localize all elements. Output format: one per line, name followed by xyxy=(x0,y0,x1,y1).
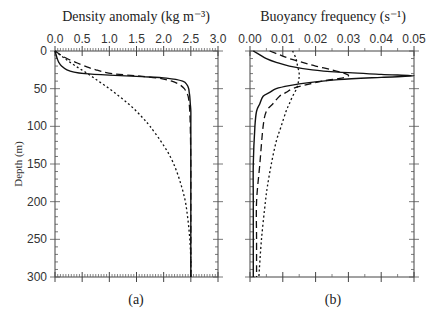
y-tick-label: 250 xyxy=(27,232,47,246)
y-tick-label: 50 xyxy=(34,82,48,96)
y-tick-label: 150 xyxy=(27,157,47,171)
series-dotted-line xyxy=(55,51,191,277)
x-tick-label: 2.0 xyxy=(155,32,172,46)
series-dashed-line xyxy=(55,51,191,277)
x-tick-label: 0.03 xyxy=(337,32,361,46)
x-tick-label: 0.04 xyxy=(370,32,394,46)
x-tick-label: 0.02 xyxy=(304,32,328,46)
x-tick-label: 3.0 xyxy=(210,32,227,46)
panel-b-caption: (b) xyxy=(325,292,342,308)
y-tick-label: 300 xyxy=(27,270,47,284)
panel-a-caption: (a) xyxy=(128,292,144,308)
x-tick-label: 1.0 xyxy=(101,32,118,46)
x-tick-label: 0.0 xyxy=(47,32,64,46)
x-tick-label: 0.5 xyxy=(74,32,91,46)
panel-b-title: Buoyancy frequency (s⁻¹) xyxy=(260,9,406,25)
y-tick-label: 0 xyxy=(40,44,47,58)
x-tick-label: 2.5 xyxy=(182,32,199,46)
series-dashed-line xyxy=(256,51,348,277)
x-tick-label: 1.5 xyxy=(128,32,145,46)
panel-a-title: Density anomaly (kg m⁻³) xyxy=(62,9,210,25)
y-axis-label: Depth (m) xyxy=(12,141,25,187)
series-solid-line xyxy=(253,51,414,277)
panel-b-frame xyxy=(250,51,414,277)
figure: Density anomaly (kg m⁻³) 0.00.51.01.52.0… xyxy=(0,0,437,326)
series-solid-line xyxy=(55,51,191,277)
panel-a-density-anomaly: Density anomaly (kg m⁻³) 0.00.51.01.52.0… xyxy=(12,9,227,308)
x-tick-label: 0.05 xyxy=(402,32,426,46)
y-tick-label: 100 xyxy=(27,119,47,133)
panel-a-frame xyxy=(55,51,218,277)
x-tick-label: 0.01 xyxy=(271,32,295,46)
y-tick-label: 200 xyxy=(27,195,47,209)
panel-b-buoyancy-frequency: Buoyancy frequency (s⁻¹) 0.000.010.020.0… xyxy=(238,9,426,308)
x-tick-label: 0.00 xyxy=(238,32,262,46)
